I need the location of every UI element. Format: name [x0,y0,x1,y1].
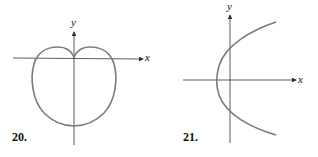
fig20-x-axis [13,58,143,59]
figure-sheet: y x 20. y x 21. [0,0,318,157]
fig21-curve [217,22,276,135]
fig21-y-label: y [227,0,232,12]
fig21-number: 21. [183,130,198,145]
fig20-number: 20. [12,130,27,145]
graphs-svg [0,0,318,157]
figure-20 [13,32,143,145]
fig20-x-label: x [145,51,150,63]
fig21-x-label: x [298,73,303,85]
fig20-y-label: y [71,16,76,28]
figure-21 [183,15,296,143]
